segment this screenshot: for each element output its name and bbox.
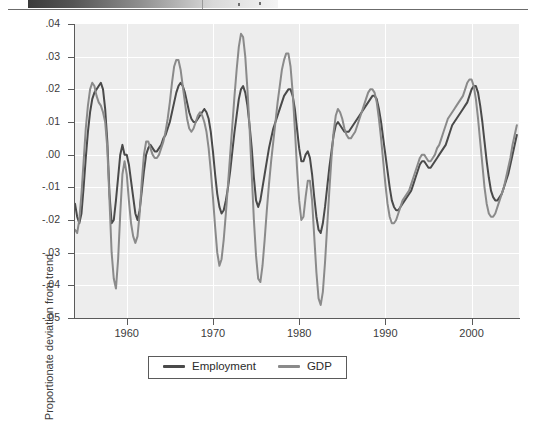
header-horizontal-rule [8, 9, 528, 10]
y-axis-label: -.03 [42, 247, 60, 258]
x-axis-label: 2000 [459, 328, 483, 339]
x-axis-tick [127, 319, 128, 325]
header-divider [202, 0, 203, 9]
legend-swatch [163, 365, 185, 368]
legend-item[interactable]: GDP [278, 361, 332, 373]
x-axis-line [74, 318, 520, 319]
series-line-gdp [75, 34, 517, 305]
x-axis-tick [213, 319, 214, 325]
legend-item[interactable]: Employment [163, 361, 256, 373]
x-axis-label: 1970 [201, 328, 225, 339]
x-axis-tick [299, 319, 300, 325]
legend-label: GDP [307, 361, 332, 373]
y-axis-label: .02 [45, 83, 60, 94]
y-axis-label: -.02 [42, 214, 60, 225]
series-lines [75, 24, 519, 318]
y-axis-label: -.05 [42, 312, 60, 323]
y-axis-label: .04 [45, 18, 60, 29]
page-header-band [0, 0, 536, 11]
y-axis-label: .00 [45, 149, 60, 160]
x-axis-tick [472, 319, 473, 325]
chart-legend: EmploymentGDP [148, 356, 347, 379]
x-axis-label: 1980 [287, 328, 311, 339]
header-mark-right [259, 2, 261, 5]
legend-swatch [278, 365, 300, 368]
y-axis-label: .03 [45, 51, 60, 62]
y-axis-label: -.04 [42, 279, 60, 290]
y-axis-labels: .04.03.02.01.00-.01-.02-.03-.04-.05 [0, 0, 66, 386]
x-axis-label: 1990 [373, 328, 397, 339]
y-axis-label: -.01 [42, 181, 60, 192]
y-axis-label: .01 [45, 116, 60, 127]
legend-label: Employment [192, 361, 256, 373]
x-axis-tick [385, 319, 386, 325]
x-axis-label: 1960 [114, 328, 138, 339]
header-mark-left [238, 3, 240, 6]
